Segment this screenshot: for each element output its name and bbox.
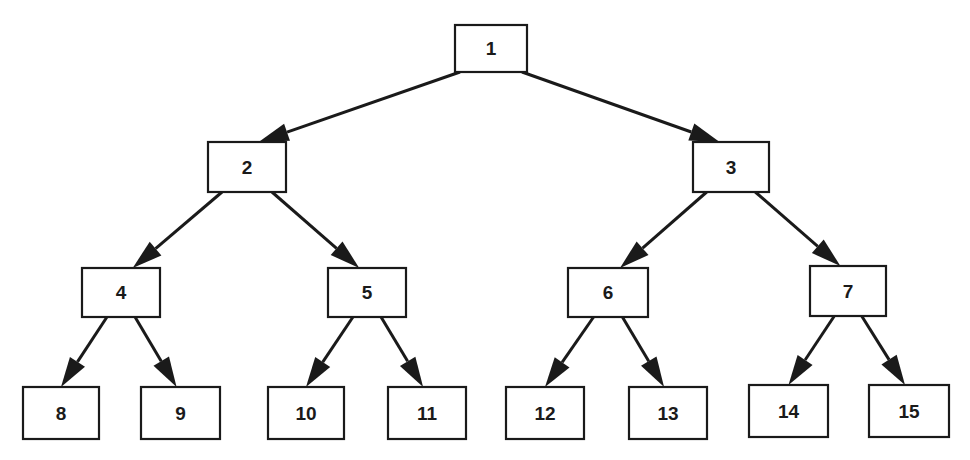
edge-line [862,316,889,360]
node-label: 6 [603,282,614,303]
edge-line [272,192,337,248]
tree-node-14: 14 [749,385,828,437]
edge-6-to-12 [545,317,594,387]
arrowhead-icon [259,124,290,142]
node-label: 10 [295,403,316,424]
tree-node-4: 4 [82,268,160,317]
tree-node-8: 8 [23,387,99,439]
edge-5-to-10 [306,317,353,387]
node-label: 14 [778,401,800,422]
arrowhead-icon [61,357,85,387]
edge-2-to-5 [272,192,359,268]
node-label: 13 [657,403,678,424]
tree-node-12: 12 [506,387,584,439]
edge-line [643,192,707,248]
edge-line [562,317,593,362]
edge-1-to-2 [259,72,460,142]
arrowhead-icon [400,357,423,387]
arrowhead-icon [789,355,813,385]
tree-node-11: 11 [388,387,466,439]
edge-line [522,72,691,132]
node-label: 15 [898,401,920,422]
tree-node-7: 7 [810,266,886,316]
edge-line [287,72,460,132]
edge-6-to-13 [622,317,664,387]
binary-tree-diagram: 123456789101112131415 [0,0,970,460]
arrowhead-icon [881,355,905,385]
tree-node-1: 1 [455,25,527,72]
edge-line [156,192,222,249]
tree-node-13: 13 [629,387,707,439]
edge-5-to-11 [381,317,423,387]
edge-line [755,192,817,246]
node-label: 1 [486,38,497,59]
edge-line [622,317,648,361]
node-label: 8 [56,403,67,424]
tree-node-10: 10 [268,387,344,439]
edge-4-to-9 [135,317,177,387]
edge-2-to-4 [133,192,222,268]
node-label: 5 [362,282,373,303]
edge-line [323,317,353,362]
node-label: 7 [843,281,854,302]
node-label: 3 [726,157,737,178]
edge-4-to-8 [61,317,107,387]
node-label: 2 [242,157,253,178]
edge-line [805,316,834,360]
edge-3-to-6 [620,192,707,268]
edge-7-to-14 [789,316,835,385]
arrowhead-icon [641,357,664,387]
edge-line [135,317,161,361]
arrowhead-icon [545,357,570,387]
node-label: 11 [417,403,438,424]
arrowhead-icon [688,123,719,142]
edge-1-to-3 [522,72,720,142]
arrowhead-icon [306,357,330,387]
tree-node-5: 5 [328,268,406,317]
edges-layer [61,72,905,387]
nodes-layer: 123456789101112131415 [23,25,949,439]
node-label: 4 [116,282,127,303]
edge-7-to-15 [862,316,905,385]
tree-node-2: 2 [208,142,286,192]
node-label: 12 [534,403,555,424]
tree-node-15: 15 [869,385,949,437]
node-label: 9 [175,403,186,424]
tree-node-9: 9 [141,387,220,439]
arrowhead-icon [154,357,177,387]
edge-3-to-7 [755,192,840,266]
edge-line [77,317,106,362]
tree-node-3: 3 [693,142,769,192]
tree-node-6: 6 [568,268,648,317]
edge-line [381,317,408,361]
